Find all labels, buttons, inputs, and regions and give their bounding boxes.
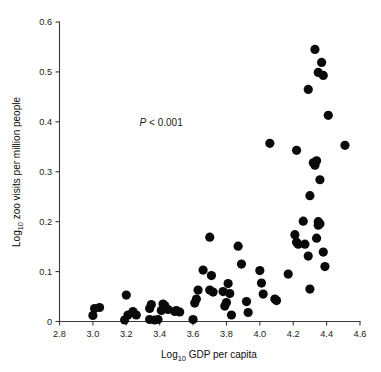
p-value-annotation: P < 0.001 — [140, 117, 184, 128]
data-point — [224, 279, 233, 288]
data-point — [208, 287, 217, 296]
data-point — [272, 296, 281, 305]
data-point — [315, 175, 324, 184]
p-value-text: < 0.001 — [146, 117, 183, 128]
x-axis-tick-labels: 2.83.03.23.43.63.84.04.24.44.6 — [53, 329, 366, 339]
x-tick-label: 4.6 — [354, 329, 367, 339]
x-axis-title-rest: GDP per capita — [186, 349, 257, 360]
x-axis-title-subscript: 10 — [178, 354, 186, 363]
data-point — [207, 271, 216, 280]
data-point — [192, 294, 201, 303]
data-points — [88, 45, 349, 325]
x-tick-label: 3.4 — [153, 329, 166, 339]
data-point — [304, 85, 313, 94]
data-point — [305, 191, 314, 200]
data-point — [122, 290, 131, 299]
data-point — [292, 146, 301, 155]
x-tick-label: 3.2 — [120, 329, 133, 339]
scatter-plot-figure: 00.10.20.30.40.50.6 2.83.03.23.43.63.84.… — [0, 0, 381, 372]
data-point — [320, 262, 329, 271]
data-point — [222, 298, 231, 307]
x-tick-label: 3.8 — [220, 329, 233, 339]
x-tick-label: 4.0 — [253, 329, 266, 339]
x-axis-title: Log10 GDP per capita — [161, 349, 257, 363]
data-point — [319, 71, 328, 80]
data-point — [153, 315, 162, 324]
data-point — [300, 240, 309, 249]
data-point — [305, 284, 314, 293]
y-axis-title-base: Log — [11, 230, 22, 247]
plot-canvas: 00.10.20.30.40.50.6 2.83.03.23.43.63.84.… — [0, 0, 381, 372]
x-tick-label: 4.4 — [320, 329, 333, 339]
data-point — [198, 265, 207, 274]
data-point — [244, 308, 253, 317]
y-tick-label: 0.5 — [39, 67, 52, 77]
data-point — [175, 307, 184, 316]
x-tick-label: 4.2 — [287, 329, 300, 339]
data-point — [227, 310, 236, 319]
data-point — [237, 260, 246, 269]
data-point — [312, 156, 321, 165]
y-tick-label: 0.6 — [39, 17, 52, 27]
data-point — [315, 219, 324, 228]
data-point — [132, 310, 141, 319]
data-point — [193, 285, 202, 294]
data-point — [147, 300, 156, 309]
tick-marks — [56, 22, 361, 326]
data-point — [324, 111, 333, 120]
data-point — [242, 297, 251, 306]
data-point — [225, 289, 234, 298]
data-point — [319, 248, 328, 257]
y-tick-label: 0.3 — [39, 167, 52, 177]
y-axis-title-subscript: 10 — [16, 222, 25, 230]
y-tick-label: 0 — [47, 317, 52, 327]
x-tick-label: 2.8 — [53, 329, 66, 339]
y-tick-label: 0.4 — [39, 117, 52, 127]
data-point — [95, 303, 104, 312]
data-point — [259, 289, 268, 298]
y-tick-label: 0.1 — [39, 267, 52, 277]
data-point — [317, 58, 326, 67]
data-point — [284, 269, 293, 278]
data-point — [340, 141, 349, 150]
x-tick-label: 3.0 — [86, 329, 99, 339]
data-point — [188, 315, 197, 324]
y-axis-title: Log10 zoo visits per million people — [11, 97, 25, 247]
data-point — [304, 252, 313, 261]
y-tick-label: 0.2 — [39, 217, 52, 227]
data-point — [299, 217, 308, 226]
x-axis-title-base: Log — [161, 349, 178, 360]
x-tick-label: 3.6 — [187, 329, 200, 339]
y-axis-title-rest: zoo visits per million people — [11, 97, 22, 222]
data-point — [205, 233, 214, 242]
data-point — [234, 242, 243, 251]
y-axis-tick-labels: 00.10.20.30.40.50.6 — [39, 17, 52, 327]
data-point — [257, 278, 266, 287]
data-point — [312, 234, 321, 243]
data-point — [265, 139, 274, 148]
data-point — [255, 266, 264, 275]
data-point — [310, 45, 319, 54]
